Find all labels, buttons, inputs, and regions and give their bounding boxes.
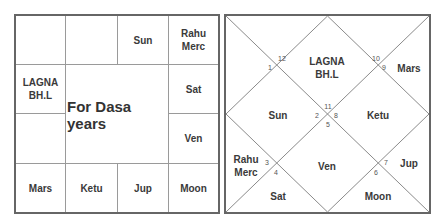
sign-number-1: 1	[268, 64, 272, 71]
house-7-planets: Jup	[400, 157, 418, 170]
house-cell-r3c0: Mars	[16, 164, 65, 212]
center-title: For Dasa years	[67, 66, 169, 164]
house-9-planets: Mars	[397, 62, 420, 75]
house-8-planets: Ketu	[367, 109, 389, 122]
chart-diagonals	[226, 16, 429, 212]
sign-number-4: 4	[274, 169, 278, 176]
north-indian-chart: LAGNA BH.L Sun Rahu Merc Sat Ven Moon Ju…	[224, 14, 431, 214]
sign-number-8: 8	[334, 112, 338, 119]
sign-number-10: 10	[372, 55, 380, 62]
house-cell-r1c3: Sat	[169, 65, 218, 113]
sign-number-5: 5	[326, 121, 330, 128]
house-4-planets: Sat	[270, 190, 286, 203]
sign-number-2: 2	[315, 112, 319, 119]
house-cell-r0c2: Sun	[118, 16, 168, 64]
house-cell-r3c2: Jup	[118, 164, 168, 212]
sign-number-7: 7	[384, 159, 388, 166]
house-2-planets: Sun	[269, 109, 288, 122]
sign-number-12: 12	[278, 55, 286, 62]
sign-number-11: 11	[324, 103, 331, 110]
sign-number-3: 3	[265, 159, 269, 166]
house-cell-r3c1: Ketu	[66, 164, 117, 212]
house-cell-r0c3: Rahu Merc	[169, 16, 218, 64]
house-3-planets: Rahu Merc	[234, 153, 259, 179]
sign-number-6: 6	[374, 169, 378, 176]
house-5-planets: Ven	[318, 160, 336, 173]
house-1-planets: LAGNA BH.L	[309, 55, 345, 81]
house-cell-r2c3: Ven	[169, 114, 218, 163]
house-cell-r0c0	[16, 16, 65, 64]
sign-number-9: 9	[382, 64, 386, 71]
house-cell-r2c0	[16, 114, 65, 163]
south-indian-chart: Sun Rahu Merc LAGNA BH.L Sat Ven Mars Ke…	[14, 14, 220, 214]
house-cell-r3c3: Moon	[169, 164, 218, 212]
house-cell-r1c0: LAGNA BH.L	[16, 65, 65, 113]
house-6-planets: Moon	[365, 190, 392, 203]
house-cell-r0c1	[66, 16, 117, 64]
